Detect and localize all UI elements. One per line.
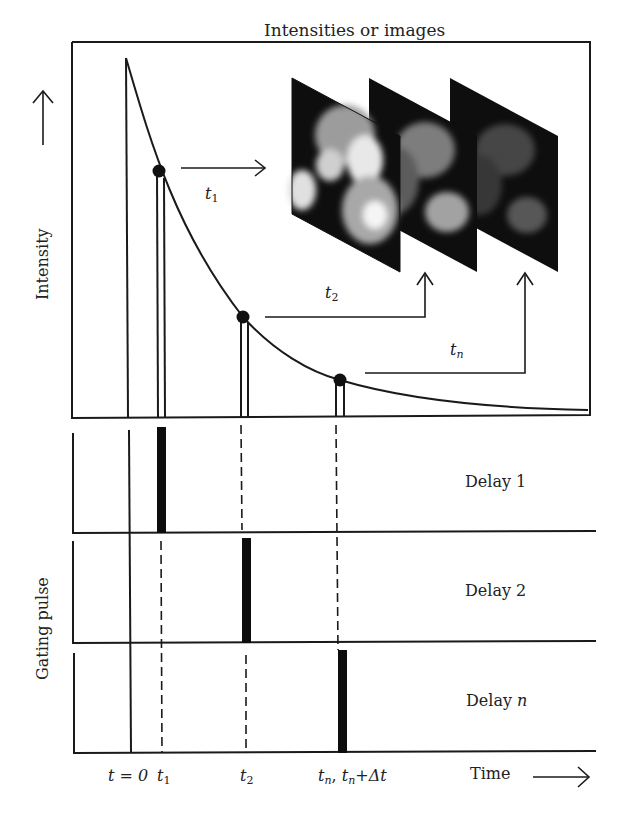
plot-title: Intensities or images xyxy=(264,20,445,40)
label-var: n xyxy=(517,691,527,710)
delay-1-label: Delay 1 xyxy=(465,472,526,491)
arrow-t2 xyxy=(265,273,433,317)
delay-n-label: Delay n xyxy=(466,691,527,710)
gate-pulse-n xyxy=(338,650,347,753)
arrow-t1 xyxy=(181,160,265,176)
label-sub: n xyxy=(456,348,463,361)
image-stack xyxy=(288,78,558,272)
label-base: Delay xyxy=(466,691,517,710)
gate-pulse-2 xyxy=(242,538,251,643)
intensity-up-arrow-icon xyxy=(33,91,53,145)
gate-window-t2 xyxy=(241,318,248,417)
label-sub: 1 xyxy=(163,774,170,787)
arrow-label-tn: tn xyxy=(450,340,464,361)
y-axis-label-gating: Gating pulse xyxy=(33,577,52,680)
arrow-label-t1: t1 xyxy=(205,184,218,205)
sample-dot-t2 xyxy=(237,311,250,324)
arrow-tn xyxy=(365,273,533,373)
label-sub: 2 xyxy=(331,291,338,304)
tick-label-tn: tn, tn+Δt xyxy=(318,766,387,787)
tick-label-t1: t1 xyxy=(157,766,170,787)
excitation-line xyxy=(126,58,128,417)
gate-window-t1 xyxy=(157,172,165,417)
sample-dot-t1 xyxy=(153,165,166,178)
y-axis-label-intensity: Intensity xyxy=(33,228,52,300)
label-sub: 1 xyxy=(211,192,218,205)
sample-dot-tn xyxy=(334,374,347,387)
gate-pulse-1 xyxy=(157,427,166,533)
label-tail: +Δt xyxy=(355,766,386,785)
label-sub-a: n xyxy=(324,774,331,787)
t0-line xyxy=(129,430,131,753)
time-arrow-icon xyxy=(533,767,589,787)
label-sub: 2 xyxy=(246,774,253,787)
arrow-label-t2: t2 xyxy=(325,283,338,304)
label-sep: , xyxy=(332,766,342,785)
gate-window-tn xyxy=(336,382,344,417)
tick-label-t2: t2 xyxy=(240,766,253,787)
x-axis-label-time: Time xyxy=(470,764,510,783)
tick-label-t0: t = 0 xyxy=(108,766,148,785)
delay-2-label: Delay 2 xyxy=(465,581,526,600)
